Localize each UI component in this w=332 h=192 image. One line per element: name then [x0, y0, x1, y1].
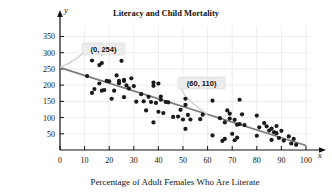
- data-point: [210, 133, 214, 137]
- annotation-callout: (0, 254): [82, 43, 125, 55]
- data-point: [277, 136, 281, 140]
- x-axis-variable-label: x: [317, 150, 322, 160]
- svg-text:300: 300: [43, 49, 55, 58]
- data-point: [114, 73, 118, 77]
- x-axis-label: Percentage of Adult Females Who Are Lite…: [91, 177, 260, 187]
- data-point: [183, 97, 187, 101]
- data-point: [287, 134, 291, 138]
- data-point: [274, 131, 278, 135]
- svg-text:200: 200: [43, 81, 55, 90]
- data-point: [237, 98, 241, 102]
- data-point: [107, 79, 111, 83]
- data-point: [282, 138, 286, 142]
- data-point: [129, 76, 133, 80]
- svg-text:150: 150: [43, 97, 55, 106]
- data-point: [269, 138, 273, 142]
- data-point: [183, 127, 187, 131]
- scatter-plot: Literacy and Child Mortality 01020304050…: [0, 0, 332, 192]
- data-point: [119, 59, 123, 63]
- data-point: [117, 79, 121, 83]
- data-point: [178, 108, 182, 112]
- svg-text:60: 60: [204, 156, 212, 165]
- data-point: [274, 124, 278, 128]
- data-point: [255, 134, 259, 138]
- data-point: [201, 113, 205, 117]
- svg-text:350: 350: [43, 32, 55, 41]
- data-point: [85, 74, 89, 78]
- data-point: [151, 84, 155, 88]
- svg-text:80: 80: [253, 156, 261, 165]
- data-point: [242, 123, 246, 127]
- data-point: [139, 92, 143, 96]
- data-point: [228, 116, 232, 120]
- data-point: [151, 120, 155, 124]
- svg-text:50: 50: [179, 156, 187, 165]
- data-point: [181, 117, 185, 121]
- svg-text:40: 40: [154, 156, 162, 165]
- data-point: [279, 129, 283, 133]
- data-point: [223, 137, 227, 141]
- data-point: [292, 137, 296, 141]
- y-axis-variable-label: y: [63, 5, 68, 15]
- data-point: [171, 115, 175, 119]
- data-point: [230, 132, 234, 136]
- data-point: [122, 79, 126, 83]
- data-point: [92, 87, 96, 91]
- svg-text:100: 100: [43, 114, 55, 123]
- data-point: [161, 111, 165, 115]
- data-point: [144, 108, 148, 112]
- data-point: [257, 125, 261, 129]
- data-point: [132, 84, 136, 88]
- data-point: [112, 89, 116, 93]
- data-point: [223, 120, 227, 124]
- data-point: [240, 112, 244, 116]
- data-point: [269, 126, 273, 130]
- annotation-callout: (60, 110): [178, 77, 225, 89]
- data-point: [142, 99, 146, 103]
- data-point: [218, 116, 222, 120]
- svg-text:70: 70: [228, 156, 236, 165]
- data-point: [146, 95, 150, 99]
- data-point: [233, 118, 237, 122]
- data-point: [90, 58, 94, 62]
- data-point: [188, 117, 192, 121]
- data-point: [166, 100, 170, 104]
- data-point: [198, 117, 202, 121]
- svg-text:250: 250: [43, 65, 55, 74]
- svg-text:90: 90: [277, 156, 285, 165]
- data-point: [159, 94, 163, 98]
- svg-text:30: 30: [130, 156, 138, 165]
- data-point: [102, 88, 106, 92]
- data-point: [156, 81, 160, 85]
- data-point: [228, 112, 232, 116]
- data-point: [289, 141, 293, 145]
- data-point: [237, 122, 241, 126]
- data-point: [183, 103, 187, 107]
- data-point: [265, 124, 269, 128]
- data-point: [90, 91, 94, 95]
- data-point: [156, 110, 160, 114]
- svg-text:(0, 254): (0, 254): [91, 45, 117, 54]
- data-point: [122, 95, 126, 99]
- data-point: [100, 61, 104, 65]
- data-point: [134, 100, 138, 104]
- svg-text:10: 10: [81, 156, 89, 165]
- data-point: [154, 101, 158, 105]
- data-point: [255, 114, 259, 118]
- svg-text:50: 50: [47, 130, 55, 139]
- data-point: [294, 143, 298, 147]
- chart-container: Literacy and Child Mortality 01020304050…: [0, 0, 332, 192]
- svg-text:0: 0: [58, 156, 62, 165]
- data-point: [149, 100, 153, 104]
- svg-text:(60, 110): (60, 110): [187, 79, 217, 88]
- data-point: [186, 113, 190, 117]
- svg-text:20: 20: [105, 156, 113, 165]
- svg-text:100: 100: [300, 156, 312, 165]
- data-point: [127, 86, 131, 90]
- data-point: [210, 99, 214, 103]
- data-point: [176, 114, 180, 118]
- data-point: [235, 136, 239, 140]
- data-point: [110, 97, 114, 101]
- data-point: [97, 81, 101, 85]
- chart-title: Literacy and Child Mortality: [113, 8, 220, 18]
